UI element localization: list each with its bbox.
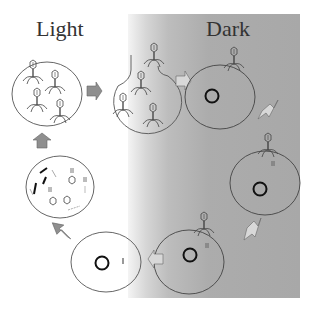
genome-ring [206, 90, 219, 103]
arrow-right-1 [87, 82, 102, 100]
genome-ring [254, 183, 267, 196]
stage-assembly-cell [26, 156, 94, 218]
stage-dark-cell-3 [154, 212, 224, 294]
stage-infecting-cell [113, 43, 182, 134]
arrow-diagonal-2 [244, 218, 261, 240]
stage-dark-cell-2 [230, 133, 300, 215]
arrow-diagonal-3 [52, 223, 70, 239]
stage-released-phages [12, 60, 82, 126]
arrow-diagonal-1 [258, 100, 278, 119]
stage-light-cell [71, 232, 141, 292]
phage-cycle-diagram [0, 0, 315, 311]
genome-ring [184, 249, 197, 262]
stage-dark-cell-1 [185, 47, 255, 129]
arrow-up [33, 133, 51, 148]
genome-ring [96, 257, 109, 270]
